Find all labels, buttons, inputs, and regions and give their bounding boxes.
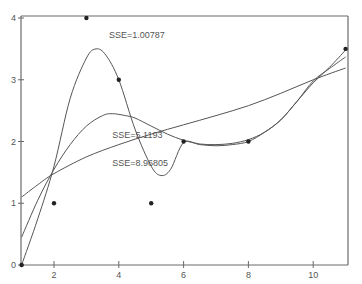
x-axis-ticks: 246810 <box>51 261 318 280</box>
y-tick-label: 2 <box>11 137 16 147</box>
x-tick-label: 6 <box>181 270 186 280</box>
data-point <box>84 16 88 20</box>
data-point <box>19 263 23 267</box>
data-point <box>181 139 185 143</box>
sse-label: SSE=8.96805 <box>112 158 168 168</box>
data-points <box>19 16 347 267</box>
sse-label: SSE=5.1193 <box>112 130 162 140</box>
y-tick-label: 4 <box>11 13 16 23</box>
y-tick-label: 1 <box>11 198 16 208</box>
data-point <box>149 201 153 205</box>
sse-label: SSE=1.00787 <box>109 30 165 40</box>
x-tick-label: 4 <box>116 270 121 280</box>
data-point <box>117 78 121 82</box>
chart: 246810 01234 SSE=1.00787SSE=5.1193SSE=8.… <box>0 0 362 284</box>
fit-curve-2 <box>22 57 346 237</box>
fit-curve-3 <box>22 68 346 197</box>
data-point <box>343 47 347 51</box>
x-tick-label: 8 <box>246 270 251 280</box>
x-tick-label: 10 <box>308 270 318 280</box>
data-point <box>246 139 250 143</box>
data-point <box>52 201 56 205</box>
fit-curve-1 <box>22 49 346 265</box>
fit-curves <box>22 49 346 265</box>
y-axis-ticks: 01234 <box>11 13 24 270</box>
annotations: SSE=1.00787SSE=5.1193SSE=8.96805 <box>109 30 168 168</box>
y-tick-label: 3 <box>11 75 16 85</box>
x-tick-label: 2 <box>51 270 56 280</box>
y-tick-label: 0 <box>11 260 16 270</box>
